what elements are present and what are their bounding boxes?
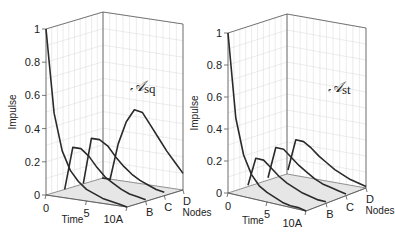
- chart-panel-left: 00.20.40.60.81Impulse0510ATimeBCDNodes𝒜s…: [7, 12, 211, 225]
- node-tick-label: D: [183, 195, 191, 207]
- node-tick-label: C: [164, 201, 172, 213]
- grid-walls: [46, 12, 183, 195]
- z-tick-label: 0.2: [25, 156, 40, 168]
- time-tick-label: 5: [264, 208, 270, 220]
- node-tick: [164, 196, 165, 200]
- time-tick: [227, 193, 228, 197]
- node-tick-label: B: [326, 208, 333, 220]
- z-tick-label: 1: [216, 27, 222, 39]
- z-tick-label: 0.2: [207, 155, 222, 167]
- node-tick: [146, 201, 147, 205]
- node-tick-label: C: [346, 201, 354, 213]
- panel-title: 𝒜sq: [130, 77, 156, 96]
- time-axis-label: Time: [62, 214, 84, 225]
- time-tick-label: 0: [225, 200, 231, 212]
- z-tick-label: 0.6: [25, 89, 40, 101]
- time-axis-label: Time: [242, 215, 264, 226]
- nodes-axis-label: Nodes: [366, 205, 395, 216]
- z-tick-label: 0.6: [207, 91, 222, 103]
- z-tick-label: 0.8: [25, 56, 40, 68]
- node-tick: [326, 203, 327, 207]
- z-tick-label: 0: [216, 187, 222, 199]
- time-tick: [45, 195, 46, 199]
- z-tick-label: 1: [34, 23, 40, 35]
- time-tick: [86, 201, 87, 205]
- box-top-edge: [46, 12, 183, 29]
- time-tick-label: 5: [83, 207, 89, 219]
- series-line-d: [102, 110, 183, 179]
- node-tick-label: B: [146, 206, 153, 218]
- time-tick: [266, 202, 267, 206]
- time-tick-label: 0: [43, 202, 49, 214]
- panel-title: 𝒜st: [328, 78, 351, 97]
- box-top-edge: [228, 14, 366, 33]
- chart-panel-right: 00.20.40.60.81Impulse0510ATimeBCDNodes𝒜s…: [189, 14, 394, 229]
- panel-title-subscript: sq: [144, 81, 156, 96]
- z-axis-label: Impulse: [7, 94, 18, 129]
- node-tick: [346, 196, 347, 200]
- node-tick-label: D: [366, 193, 374, 205]
- nodes-axis-label: Nodes: [183, 207, 212, 218]
- z-tick-label: 0.4: [25, 123, 40, 135]
- z-tick-label: 0.8: [207, 59, 222, 71]
- node-tick: [366, 188, 367, 192]
- time-tick-label: 10A: [282, 217, 302, 229]
- time-tick-label: 10A: [103, 213, 123, 225]
- z-tick-label: 0: [34, 189, 40, 201]
- chart-canvas: 00.20.40.60.81Impulse0510ATimeBCDNodes𝒜s…: [0, 0, 395, 236]
- z-tick-label: 0.4: [207, 123, 222, 135]
- z-axis-label: Impulse: [189, 95, 200, 130]
- panel-title-subscript: st: [342, 82, 351, 97]
- figure: 00.20.40.60.81Impulse0510ATimeBCDNodes𝒜s…: [0, 0, 395, 236]
- node-tick: [183, 190, 184, 194]
